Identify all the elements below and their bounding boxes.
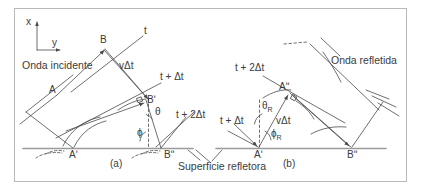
panel-b-distance-vdt: vΔt (276, 116, 290, 126)
reflected-ray-from-Bdouble-b (352, 102, 383, 147)
surface-label: Superficie refletora (178, 161, 266, 172)
right-angle-mark-Adouble-b (291, 95, 297, 101)
panel-a-point-B: B (100, 35, 107, 45)
angle-theta-R-arc-b (255, 114, 263, 124)
panel-a-caption: (a) (110, 159, 122, 169)
dashed-segment-top-b (284, 42, 307, 44)
reflected-wavefront-top-right-b (310, 38, 379, 110)
wavefront-edge-left-a (26, 112, 73, 148)
panel-b-point-B-double: Bʹʹ (347, 150, 358, 160)
incident-ray-extension-left-a (20, 95, 57, 124)
panel-a-wavefront-t: t (144, 26, 147, 36)
panel-a-wavefront-t-plus-2dt: t + 2Δt (176, 110, 205, 120)
panel-b-wavefront-t-plus-2dt: t + 2Δt (235, 63, 264, 73)
incident-ray-to-Bdouble-b (293, 96, 349, 146)
wavefront-t-plus-dt-b (228, 131, 258, 147)
panel-a-angle-theta: θ (155, 107, 161, 117)
panel-b-wavefront-t-plus-dt: t + Δt (220, 116, 244, 126)
panel-b-point-A-double: Aʹʹ (279, 82, 290, 92)
panel-b-angle-phi-R: ϕR (271, 129, 282, 141)
panel-b-caption: (b) (283, 159, 295, 169)
panel-a-title: Onda incidente (22, 60, 93, 71)
reflected-wavelet-arc-Bprime-a (118, 99, 146, 110)
panel-a-point-B-double: Bʹʹ (164, 150, 175, 160)
panel-b-point-A-prime: Aʹ (254, 150, 263, 160)
panel-a-angle-phi: ϕ (137, 128, 143, 138)
wavelet-arcs-Bdouble-a (132, 150, 160, 158)
theta-R-subscript: R (268, 106, 273, 113)
panel-a-distance-vdt: vΔt (119, 61, 133, 71)
axis-label-y: y (52, 38, 57, 48)
incident-ray-to-Aprime-b (234, 124, 257, 146)
incident-ray-A-to-B (57, 50, 105, 95)
incident-ray-upper-right-a (104, 50, 148, 99)
phi-R-subscript: R (277, 134, 282, 141)
panel-a-point-B-prime: Bʹ (147, 95, 156, 105)
reflected-wavelet-arc-Bdouble-b (311, 127, 346, 134)
physics-figure-reflection: x y Onda incidente A B Aʹ Bʹ Bʹʹ t t + Δ… (0, 0, 421, 192)
panel-b-title: Onda refletida (331, 55, 397, 66)
wavelet-arcs-Aprime-a (36, 150, 64, 158)
panel-a-point-A: A (49, 85, 56, 95)
panel-b-angle-theta-R: θR (262, 101, 273, 113)
axis-label-x: x (26, 17, 31, 27)
panel-a-point-A-prime: Aʹ (69, 150, 78, 160)
reflected-wavelet-arc-Aprime-a (63, 117, 106, 147)
panel-a-wavefront-t-plus-dt: t + Δt (160, 72, 184, 82)
